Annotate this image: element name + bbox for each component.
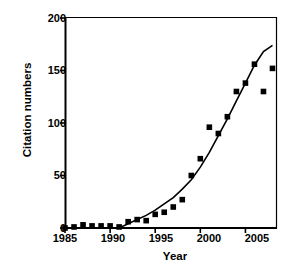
data-point <box>134 217 140 223</box>
data-point <box>179 197 185 203</box>
data-point <box>207 124 213 130</box>
data-point <box>234 89 240 95</box>
data-point <box>198 156 204 162</box>
data-point <box>125 219 131 225</box>
data-point <box>152 212 158 218</box>
data-point <box>80 222 86 228</box>
citation-numbers-chart: Citation numbers Year 200 150 100 50 0 1… <box>0 0 285 270</box>
data-point <box>98 223 104 229</box>
trend-line <box>119 45 272 228</box>
data-point <box>89 223 95 229</box>
data-point <box>243 80 249 86</box>
data-point <box>225 114 231 120</box>
data-point <box>107 223 113 229</box>
data-point <box>261 89 267 95</box>
data-point <box>189 173 195 179</box>
data-point <box>252 61 258 67</box>
data-point <box>161 209 167 215</box>
data-point <box>143 218 149 224</box>
data-point <box>116 224 122 230</box>
y-tick-marks <box>60 18 65 228</box>
data-point <box>216 131 222 137</box>
data-point <box>62 225 68 231</box>
data-point <box>170 204 176 210</box>
data-point <box>71 224 77 230</box>
data-point <box>270 66 276 72</box>
plot-area <box>0 0 285 270</box>
